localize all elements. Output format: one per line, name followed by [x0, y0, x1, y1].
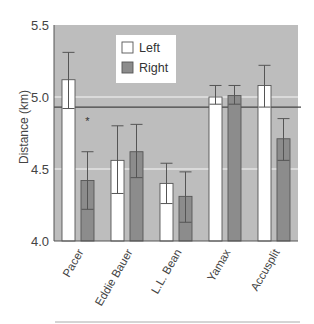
x-tick-labels: PacerEddie BauerL.L. BeanYamaxAccusplit [60, 246, 282, 308]
annotations: * [85, 115, 90, 127]
bar-yamax-right [228, 96, 241, 241]
legend-label-left: Left [139, 41, 160, 55]
y-axis-label: Distance (km) [17, 90, 31, 164]
legend-swatch-left [122, 42, 133, 53]
x-tick-label: Pacer [60, 247, 85, 279]
y-tick-label: 5.5 [31, 18, 49, 33]
x-tick-label: Eddie Bauer [93, 247, 135, 308]
legend-label-right: Right [139, 61, 169, 75]
y-tick-labels: 4.04.55.05.5 [31, 18, 49, 249]
y-tick-label: 4.5 [31, 162, 49, 177]
y-tick-label: 5.0 [31, 90, 49, 105]
significance-asterisk: * [85, 115, 90, 127]
bar-chart: * 4.04.55.05.5 Distance (km) PacerEddie … [0, 0, 314, 324]
bar-accusplit-left [258, 85, 271, 241]
x-tick-label: Accusplit [248, 246, 282, 293]
y-tick-label: 4.0 [31, 234, 49, 249]
x-tick-label: L.L. Bean [149, 247, 184, 296]
x-tick-label: Yamax [205, 247, 233, 283]
legend-swatch-right [122, 62, 133, 73]
bar-yamax-left [209, 97, 222, 241]
legend: LeftRight [116, 35, 176, 83]
